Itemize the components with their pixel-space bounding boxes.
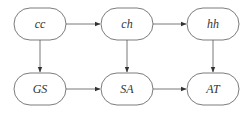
node-hh: hh (187, 8, 239, 40)
node-ch: ch (101, 8, 153, 40)
flow-diagram: cc ch hh GS SA AT (0, 0, 249, 113)
node-cc: cc (14, 8, 66, 40)
node-gs-label: GS (33, 82, 48, 96)
node-sa: SA (101, 73, 153, 105)
node-at-label: AT (205, 82, 221, 96)
node-hh-label: hh (207, 17, 219, 31)
node-ch-label: ch (121, 17, 132, 31)
node-sa-label: SA (120, 82, 134, 96)
node-at: AT (187, 73, 239, 105)
node-gs: GS (14, 73, 66, 105)
node-cc-label: cc (35, 17, 46, 31)
